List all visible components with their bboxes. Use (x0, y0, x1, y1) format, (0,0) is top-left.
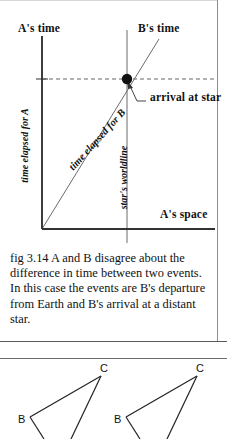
arrival-leader-line (130, 86, 146, 101)
section-rule-upper (0, 341, 227, 342)
x-axis-label: A's space (160, 208, 207, 220)
time-elapsed-a-label: time elapsed for A (19, 98, 30, 194)
triangle-right-edge-bc (126, 376, 197, 417)
arrival-event-dot (122, 74, 132, 84)
triangle-left-edge-ba (30, 417, 44, 439)
triangle-left-edge-bc (30, 376, 101, 417)
triangle-left-vertex-c: C (100, 362, 108, 374)
spacetime-diagram: A's time B's time A's space arrival at s… (0, 0, 227, 245)
triangle-right-edge-ca (167, 376, 197, 439)
y-axis-label: A's time (18, 22, 60, 34)
star-worldline-label: star's worldline (118, 130, 129, 226)
triangle-right-vertex-c: C (196, 362, 204, 374)
triangle-right-vertex-b: B (114, 413, 121, 425)
bottom-triangles-figure (0, 359, 227, 439)
figure-page: A's time B's time A's space arrival at s… (0, 0, 227, 439)
bottom-triangles-svg (0, 359, 227, 439)
b-axis-label: B's time (138, 22, 180, 34)
triangle-left-vertex-b: B (18, 413, 25, 425)
triangle-left-edge-ca (71, 376, 101, 439)
triangle-right-edge-ba (126, 417, 140, 439)
arrival-event-label: arrival at star (150, 91, 221, 103)
figure-caption: fig 3.14 A and B disagree about the diff… (10, 251, 210, 327)
